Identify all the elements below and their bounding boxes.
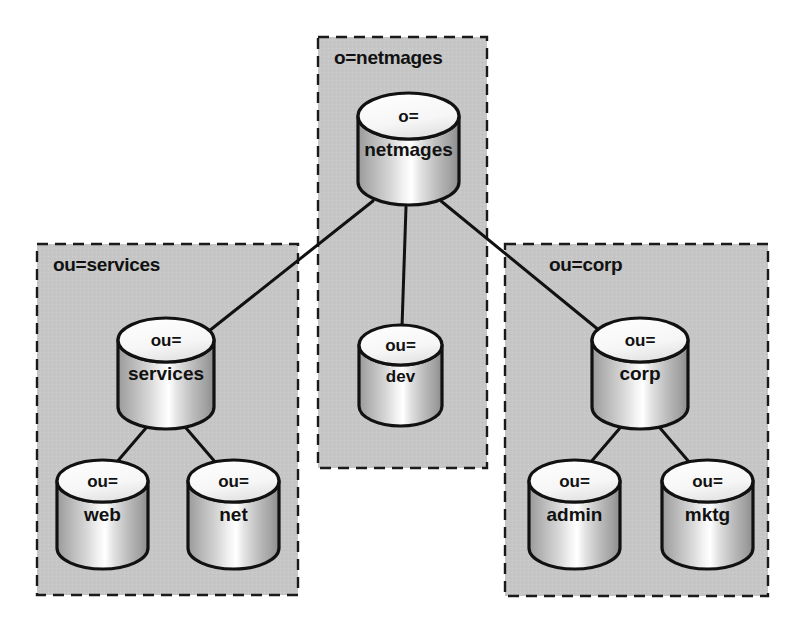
node-corp-value-label: corp bbox=[619, 363, 660, 384]
node-corp[interactable]: ou=corp bbox=[592, 318, 688, 429]
node-net-attribute-label: ou= bbox=[218, 472, 249, 491]
node-corp-attribute-label: ou= bbox=[625, 331, 656, 350]
node-services[interactable]: ou=services bbox=[118, 318, 214, 429]
node-web-value-label: web bbox=[83, 504, 121, 525]
node-admin-attribute-label: ou= bbox=[559, 472, 590, 491]
node-dev-value-label: dev bbox=[386, 367, 416, 386]
node-admin[interactable]: ou=admin bbox=[529, 460, 620, 569]
node-dev-attribute-label: ou= bbox=[385, 336, 416, 355]
node-netmages[interactable]: o=netmages bbox=[358, 93, 459, 205]
node-admin-value-label: admin bbox=[547, 504, 603, 525]
node-mktg[interactable]: ou=mktg bbox=[662, 460, 753, 569]
node-netmages-value-label: netmages bbox=[364, 139, 453, 160]
node-net[interactable]: ou=net bbox=[188, 460, 279, 569]
node-net-value-label: net bbox=[219, 504, 248, 525]
node-netmages-attribute-label: o= bbox=[398, 107, 418, 126]
group-netmages-label: o=netmages bbox=[334, 47, 442, 68]
node-mktg-attribute-label: ou= bbox=[692, 472, 723, 491]
node-dev[interactable]: ou=dev bbox=[359, 325, 442, 426]
ldap-tree-diagram: o=netmagesou=servicesou=devou=corpou=web… bbox=[0, 0, 801, 635]
node-web-attribute-label: ou= bbox=[87, 472, 118, 491]
diagram-canvas: o=netmagesou=servicesou=devou=corpou=web… bbox=[0, 0, 801, 635]
node-services-value-label: services bbox=[128, 363, 204, 384]
node-services-attribute-label: ou= bbox=[151, 331, 182, 350]
node-web[interactable]: ou=web bbox=[57, 460, 148, 569]
group-services-label: ou=services bbox=[53, 254, 160, 275]
node-mktg-value-label: mktg bbox=[685, 504, 730, 525]
group-corp-label: ou=corp bbox=[549, 254, 622, 275]
